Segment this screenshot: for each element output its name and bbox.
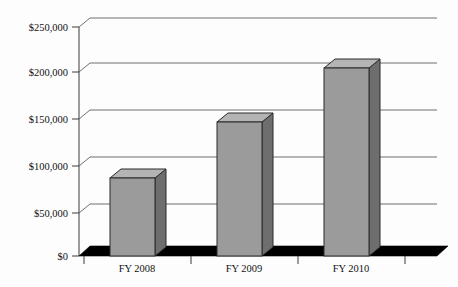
- x-tick-label-fy-2009: FY 2009: [226, 263, 263, 274]
- bar-fy-2010-front: [324, 68, 369, 256]
- bar-fy-2008[interactable]: [110, 169, 166, 256]
- bar-fy-2008-front: [110, 178, 155, 256]
- x-tick-label-fy-2008: FY 2008: [119, 263, 156, 274]
- bar-fy-2008-side: [155, 169, 166, 256]
- y-tick-label-100000: $100,000: [29, 161, 68, 172]
- bar-fy-2010[interactable]: [324, 59, 380, 256]
- bar-fy-2010-side: [369, 59, 380, 256]
- y-tick-label-150000: $150,000: [29, 114, 68, 125]
- chart-container: $250,000 $200,000 $150,000 $100,000 $50,…: [0, 0, 458, 287]
- y-tick-label-200000: $200,000: [29, 67, 68, 78]
- y-tick-label-50000: $50,000: [34, 208, 68, 219]
- bar-chart: $250,000 $200,000 $150,000 $100,000 $50,…: [0, 0, 458, 287]
- bar-fy-2009-front: [217, 122, 262, 256]
- y-tick-label-250000: $250,000: [29, 22, 68, 33]
- y-tick-label-0: $0: [58, 251, 69, 262]
- x-tick-label-fy-2010: FY 2010: [333, 263, 370, 274]
- bar-fy-2009-side: [262, 113, 273, 256]
- bar-fy-2009[interactable]: [217, 113, 273, 256]
